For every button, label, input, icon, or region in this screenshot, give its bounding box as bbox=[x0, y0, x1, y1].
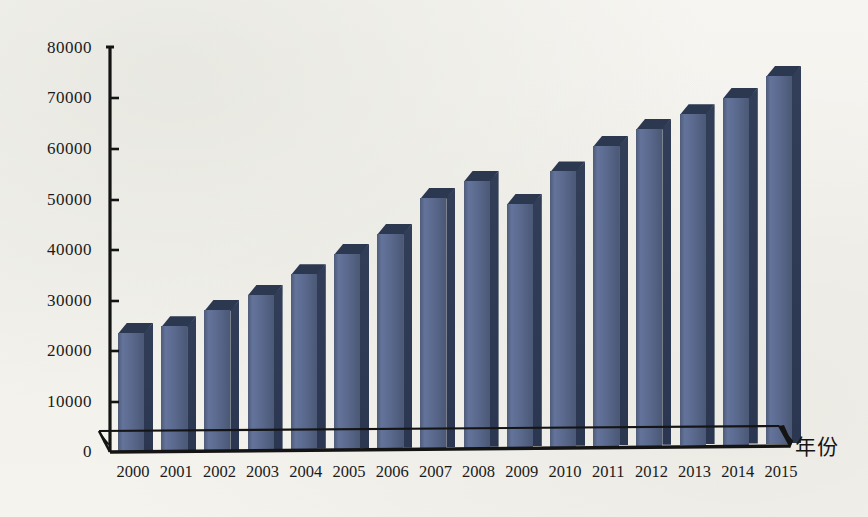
x-tick-label: 2002 bbox=[203, 462, 236, 482]
x-tick-label: 2010 bbox=[549, 462, 582, 482]
x-axis-title: 年份 bbox=[795, 430, 839, 460]
x-axis-line bbox=[110, 446, 790, 452]
chart-axes bbox=[0, 0, 868, 517]
x-axis-back-line bbox=[99, 426, 779, 431]
x-tick-label: 2014 bbox=[721, 462, 754, 482]
x-tick-label: 2001 bbox=[160, 462, 193, 482]
x-tick-label: 2005 bbox=[333, 462, 366, 482]
x-tick-label: 2012 bbox=[635, 462, 668, 482]
x-tick-label: 2011 bbox=[592, 462, 624, 482]
chart-page: 80000 70000 60000 50000 40000 30000 2000… bbox=[0, 0, 868, 517]
x-tick-label: 2009 bbox=[505, 462, 538, 482]
x-tick-label: 2003 bbox=[246, 462, 279, 482]
x-tick-label: 2007 bbox=[419, 462, 452, 482]
x-tick-label: 2015 bbox=[765, 462, 798, 482]
x-tick-label: 2008 bbox=[462, 462, 495, 482]
x-tick-label: 2013 bbox=[678, 462, 711, 482]
x-tick-label: 2000 bbox=[117, 462, 150, 482]
x-tick-label: 2006 bbox=[376, 462, 409, 482]
x-tick-label: 2004 bbox=[289, 462, 322, 482]
